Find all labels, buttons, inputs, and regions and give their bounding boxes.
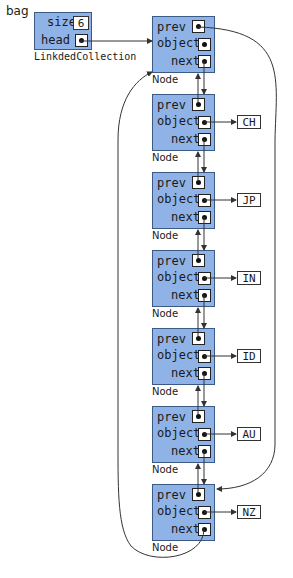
pointer-arrows — [0, 0, 293, 578]
